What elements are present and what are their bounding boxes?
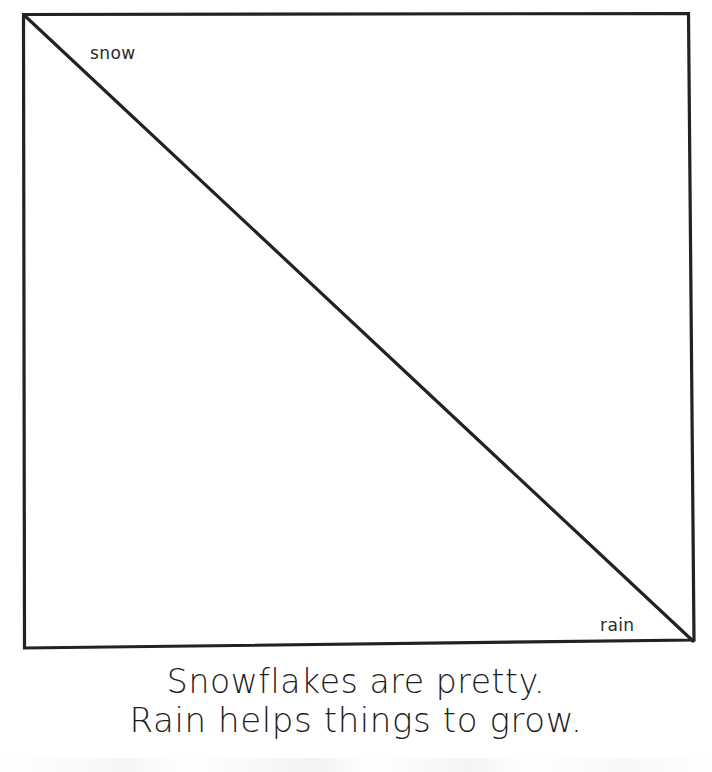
- worksheet-page: snow rain Snowflakes are pretty. Rain he…: [0, 0, 712, 772]
- caption-block: Snowflakes are pretty. Rain helps things…: [0, 662, 712, 740]
- caption-line-1: Snowflakes are pretty.: [0, 662, 712, 701]
- diagram-svg: [22, 13, 694, 647]
- region-label-rain: rain: [600, 615, 635, 635]
- scan-artifact-band: [0, 758, 712, 772]
- diagram-square-frame: snow rain: [22, 13, 691, 644]
- caption-line-2: Rain helps things to grow.: [0, 701, 712, 740]
- region-label-snow: snow: [90, 43, 136, 63]
- diagonal-divider-line: [24, 15, 693, 641]
